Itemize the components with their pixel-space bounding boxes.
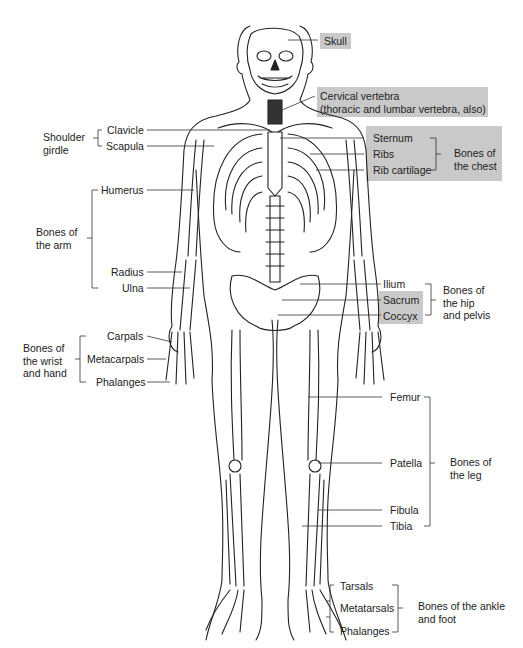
left-foot [206, 590, 244, 634]
carpals-leader [147, 336, 172, 342]
group-wrist-hand: Bones of the wrist and hand [23, 342, 67, 380]
skeleton-illustration [0, 0, 523, 648]
label-rib-cartilage: Rib cartilage [373, 164, 431, 176]
label-metacarpals: Metacarpals [87, 353, 144, 365]
group-wrist-line2: the wrist [23, 355, 67, 368]
label-phalanges-hand: Phalanges [96, 376, 146, 388]
right-eye-socket [279, 51, 293, 61]
left-eye-socket [257, 51, 271, 61]
label-clavicle: Clavicle [107, 124, 144, 136]
group-arm-line1: Bones of [36, 226, 77, 239]
left-forearm [180, 260, 196, 330]
group-shoulder-line2: girdle [43, 144, 85, 157]
group-chest-line1: Bones of [454, 147, 497, 160]
label-sternum: Sternum [373, 132, 413, 144]
label-coccyx: Coccyx [383, 310, 417, 322]
group-wrist-line1: Bones of [23, 342, 67, 355]
group-leg-line2: the leg [450, 469, 491, 482]
label-carpals: Carpals [107, 330, 143, 342]
group-chest: Bones of the chest [454, 147, 497, 172]
shoulder-bracket [93, 130, 102, 146]
spine [266, 196, 284, 282]
group-shoulder-girdle: Shoulder girdle [43, 131, 85, 156]
label-ribs: Ribs [373, 148, 394, 160]
group-leg-line1: Bones of [450, 456, 491, 469]
group-arm-line2: the arm [36, 239, 77, 252]
group-foot-line2: and foot [418, 613, 505, 626]
hip-bracket [425, 284, 436, 315]
label-metatarsals: Metatarsals [340, 602, 394, 614]
label-phalanges-foot: Phalanges [340, 625, 390, 637]
right-humerus [346, 140, 362, 256]
left-hand [166, 332, 194, 384]
clavicles [218, 124, 332, 132]
group-hip-line3: and pelvis [443, 309, 490, 322]
sternum [268, 132, 282, 196]
right-patella [309, 460, 321, 472]
group-hip-pelvis: Bones of the hip and pelvis [443, 284, 490, 322]
label-tibia: Tibia [390, 520, 412, 532]
right-forearm [354, 260, 370, 330]
group-arm: Bones of the arm [36, 226, 77, 251]
label-tarsals: Tarsals [340, 580, 373, 592]
label-fibula: Fibula [390, 504, 419, 516]
group-foot-line1: Bones of the ankle [418, 600, 505, 613]
chest-bracket [430, 138, 441, 170]
left-tibia-fibula [226, 474, 244, 586]
left-femur [231, 330, 242, 460]
pelvis [230, 275, 319, 330]
label-femur: Femur [390, 391, 420, 403]
leg-bracket [424, 397, 435, 526]
label-ilium: Ilium [383, 278, 405, 290]
label-humerus: Humerus [101, 184, 144, 196]
group-ankle-foot: Bones of the ankle and foot [418, 600, 505, 625]
left-humerus [188, 140, 204, 256]
label-sacrum: Sacrum [383, 294, 419, 306]
wrist-bracket [75, 336, 86, 382]
foot-bracket-left [326, 585, 334, 632]
nasal-cavity [271, 60, 279, 70]
group-hip-line2: the hip [443, 297, 490, 310]
group-chest-line2: the chest [454, 160, 497, 173]
label-cervical-note: (thoracic and lumbar vertebra, also) [320, 103, 486, 115]
group-wrist-line3: and hand [23, 367, 67, 380]
label-skull: Skull [324, 35, 347, 47]
right-tibia-fibula [306, 474, 324, 586]
group-shoulder-line1: Shoulder [43, 131, 85, 144]
label-patella: Patella [390, 457, 422, 469]
cervical-vertebrae [268, 100, 282, 124]
arm-bracket [87, 190, 98, 288]
label-scapula: Scapula [106, 140, 144, 152]
group-hip-line1: Bones of [443, 284, 490, 297]
group-leg: Bones of the leg [450, 456, 491, 481]
left-patella [229, 460, 241, 472]
right-femur [308, 330, 319, 460]
label-ulna: Ulna [122, 282, 144, 294]
right-hand [356, 332, 384, 384]
label-radius: Radius [111, 266, 144, 278]
label-cervical-vertebra: Cervical vertebra [320, 90, 399, 102]
ribcage [213, 134, 336, 252]
jaw-teeth [258, 76, 292, 87]
